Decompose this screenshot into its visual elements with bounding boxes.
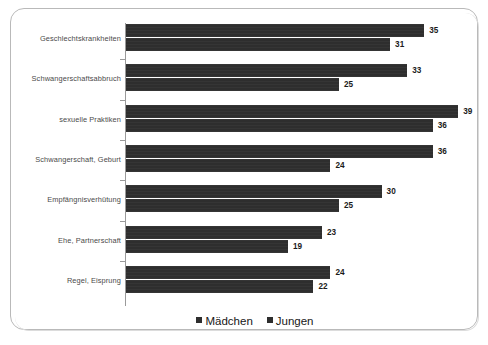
bar — [126, 280, 313, 293]
bar — [126, 266, 330, 279]
legend-swatch-icon — [196, 317, 202, 323]
bar-group-jungen: 36 — [126, 119, 433, 132]
category-label: Ehe, Partnerschaft — [0, 236, 121, 245]
legend-label: Jungen — [276, 315, 314, 327]
legend-swatch-icon — [267, 317, 273, 323]
axis-tick — [120, 221, 125, 222]
bar-group-mädchen: 36 — [126, 145, 433, 158]
bar — [126, 24, 424, 37]
bar-value-label: 23 — [327, 228, 336, 237]
bar — [126, 226, 322, 239]
bar-group-mädchen: 39 — [126, 105, 458, 118]
legend-item-mädchen[interactable]: Mädchen — [196, 315, 252, 327]
legend-label: Mädchen — [205, 315, 252, 327]
chart-category-row: Geschlechtskrankheiten3531 — [11, 23, 488, 63]
bar-group-mädchen: 24 — [126, 266, 330, 279]
bar — [126, 159, 330, 172]
bar-group-jungen: 19 — [126, 240, 288, 253]
axis-tick — [120, 100, 125, 101]
bar-value-label: 22 — [318, 282, 327, 291]
bar-group-jungen: 22 — [126, 280, 313, 293]
bar — [126, 199, 339, 212]
axis-tick — [120, 140, 125, 141]
bar-group-jungen: 31 — [126, 38, 390, 51]
bar-group-jungen: 25 — [126, 78, 339, 91]
axis-tick — [120, 59, 125, 60]
category-label: Geschlechtskrankheiten — [0, 34, 121, 43]
bar — [126, 38, 390, 51]
chart-category-row: sexuelle Praktiken3936 — [11, 104, 488, 144]
bar-value-label: 25 — [344, 80, 353, 89]
bar — [126, 105, 458, 118]
bar-group-mädchen: 33 — [126, 64, 407, 77]
chart-legend: MädchenJungen — [11, 315, 488, 327]
chart-category-row: Regel, Eisprung2422 — [11, 265, 488, 305]
bar-value-label: 36 — [438, 147, 447, 156]
bar-value-label: 33 — [412, 66, 421, 75]
bar — [126, 145, 433, 158]
plot-area: Geschlechtskrankheiten3531Schwangerschaf… — [11, 9, 477, 329]
axis-tick — [120, 180, 125, 181]
bar-value-label: 30 — [387, 187, 396, 196]
category-label: sexuelle Praktiken — [0, 115, 121, 124]
bar-value-label: 24 — [335, 268, 344, 277]
chart-category-row: Schwangerschaftsabbruch3325 — [11, 63, 488, 103]
category-label: Regel, Eisprung — [0, 276, 121, 285]
chart-category-row: Schwangerschaft, Geburt3624 — [11, 144, 488, 184]
bar-group-jungen: 25 — [126, 199, 339, 212]
bar-value-label: 31 — [395, 40, 404, 49]
bar-value-label: 36 — [438, 121, 447, 130]
bar — [126, 119, 433, 132]
chart-frame: Geschlechtskrankheiten3531Schwangerschaf… — [10, 8, 478, 330]
category-label: Empfängnisverhütung — [0, 195, 121, 204]
category-label: Schwangerschaft, Geburt — [0, 155, 121, 164]
bar — [126, 240, 288, 253]
category-label: Schwangerschaftsabbruch — [0, 74, 121, 83]
bar-group-jungen: 24 — [126, 159, 330, 172]
bar-group-mädchen: 23 — [126, 226, 322, 239]
bar-value-label: 24 — [335, 161, 344, 170]
bar-group-mädchen: 30 — [126, 185, 382, 198]
bar-value-label: 39 — [463, 107, 472, 116]
bar-value-label: 19 — [293, 242, 302, 251]
chart-category-row: Empfängnisverhütung3025 — [11, 184, 488, 224]
bar — [126, 64, 407, 77]
bar-group-mädchen: 35 — [126, 24, 424, 37]
bar — [126, 185, 382, 198]
bar-value-label: 25 — [344, 201, 353, 210]
bar — [126, 78, 339, 91]
chart-category-row: Ehe, Partnerschaft2319 — [11, 225, 488, 265]
axis-tick — [120, 261, 125, 262]
bar-value-label: 35 — [429, 26, 438, 35]
legend-item-jungen[interactable]: Jungen — [267, 315, 314, 327]
